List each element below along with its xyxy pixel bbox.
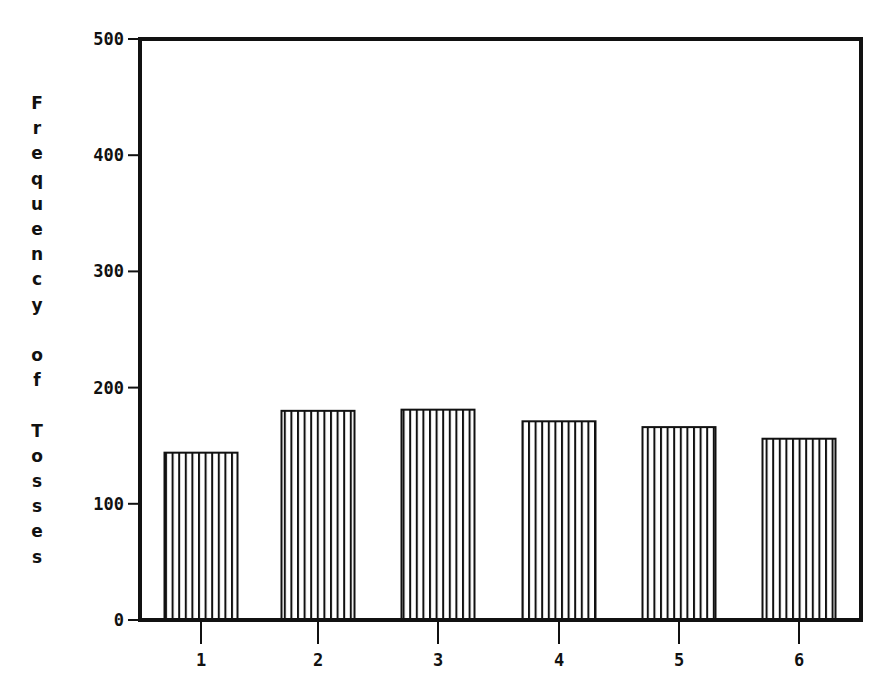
bar-1 — [165, 453, 238, 620]
y-axis-label-char: e — [31, 143, 43, 163]
y-axis-label-char: u — [31, 194, 43, 214]
x-tick-label: 2 — [313, 650, 323, 670]
y-axis-label-char: s — [32, 547, 42, 567]
bar-4 — [523, 421, 596, 620]
y-tick-label: 400 — [93, 145, 124, 165]
bars — [165, 410, 836, 620]
y-axis-label-char: f — [33, 370, 41, 390]
x-tick-label: 6 — [794, 650, 804, 670]
y-axis-label-char: e — [31, 219, 43, 239]
x-tick-label: 5 — [674, 650, 684, 670]
y-axis-label-char: c — [32, 269, 42, 289]
y-axis-label-char: r — [33, 118, 42, 138]
y-axis-label-char: y — [31, 295, 42, 315]
y-axis-label-char: s — [32, 471, 42, 491]
y-axis-label-char: e — [31, 521, 43, 541]
y-axis-label-char: o — [31, 345, 43, 365]
bar-5 — [643, 427, 716, 620]
y-tick-label: 200 — [93, 378, 124, 398]
y-axis-label-char: o — [31, 446, 43, 466]
x-tick-label: 4 — [554, 650, 564, 670]
x-tick-label: 1 — [196, 650, 206, 670]
plot-frame — [140, 39, 861, 620]
y-tick-label: 300 — [93, 261, 124, 281]
y-tick-label: 500 — [93, 29, 124, 49]
y-axis-label-char: T — [31, 421, 43, 441]
bar-chart: FrequencyofTosses 0100200300400500 12345… — [0, 0, 891, 699]
bar-2 — [282, 411, 355, 620]
y-axis-ticks: 0100200300400500 — [93, 29, 140, 630]
y-tick-label: 100 — [93, 494, 124, 514]
x-tick-label: 3 — [433, 650, 443, 670]
bar-6 — [763, 439, 836, 620]
bar-3 — [402, 410, 475, 620]
x-axis-ticks: 123456 — [196, 620, 804, 670]
y-axis-label-char: s — [32, 496, 42, 516]
y-axis-label-char: n — [31, 244, 43, 264]
y-tick-label: 0 — [114, 610, 124, 630]
y-axis-label-char: F — [31, 93, 43, 113]
y-axis-label-char: q — [31, 169, 43, 189]
y-axis-label: FrequencyofTosses — [31, 93, 43, 567]
